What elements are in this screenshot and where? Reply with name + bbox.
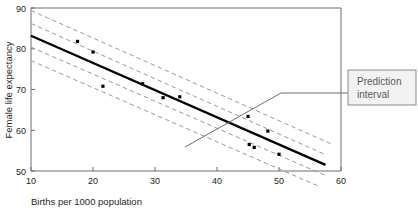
interval-line-prediction-interval-lower: [31, 61, 319, 187]
prediction-interval-callout[interactable]: Prediction interval: [348, 70, 416, 105]
y-tick-label-50: 50: [16, 167, 26, 177]
data-point: [178, 95, 181, 98]
y-tick-label-90: 90: [16, 4, 26, 14]
data-point: [91, 50, 94, 53]
callout-label-line2: interval: [357, 89, 389, 100]
x-tick-label-60: 60: [336, 176, 346, 186]
x-axis-title: Births per 1000 population: [31, 196, 142, 207]
regression-fit-line: [31, 36, 326, 165]
interval-line-confidence-interval-lower: [31, 47, 326, 175]
chart-container: 90 80 70 60 50 10 20 30 40 50 60 Female …: [0, 0, 418, 208]
y-axis-ticks: 90 80 70 60 50: [16, 4, 35, 177]
interval-line-prediction-interval-upper: [31, 10, 332, 144]
x-tick-label-40: 40: [212, 176, 222, 186]
x-tick-label-50: 50: [274, 176, 284, 186]
y-tick-label-70: 70: [16, 85, 26, 95]
interval-lines-group: [31, 10, 332, 186]
y-tick-label-60: 60: [16, 126, 26, 136]
data-point: [277, 153, 280, 156]
data-point: [248, 143, 251, 146]
y-axis-title: Female life expectancy: [3, 41, 14, 138]
interval-line-confidence-interval-upper: [31, 23, 326, 154]
data-point: [101, 85, 104, 88]
data-point: [141, 82, 144, 85]
y-tick-label-80: 80: [16, 44, 26, 54]
x-tick-label-30: 30: [150, 176, 160, 186]
x-axis-ticks: 10 20 30 40 50 60: [26, 167, 346, 186]
scatter-plot-svg: 90 80 70 60 50 10 20 30 40 50 60 Female …: [0, 0, 418, 208]
data-point: [246, 115, 249, 118]
callout-label-line1: Prediction: [357, 76, 401, 87]
x-tick-label-20: 20: [88, 176, 98, 186]
data-point: [253, 146, 256, 149]
data-point: [76, 40, 79, 43]
scatter-points-group: [76, 40, 281, 156]
x-tick-label-10: 10: [26, 176, 36, 186]
data-point: [266, 129, 269, 132]
data-point: [161, 96, 164, 99]
